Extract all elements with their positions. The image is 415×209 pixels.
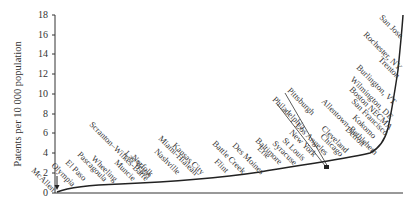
ytick-18: 18 [38,9,48,20]
marker [324,165,329,169]
ytick-8: 8 [43,108,48,119]
ytick-14: 14 [38,48,48,59]
ytick-16: 16 [38,29,48,40]
ytick-4: 4 [43,147,48,158]
city-labels: McAllen Olympia El Paso Pascagoula Wheel… [30,12,406,194]
ytick-10: 10 [38,88,48,99]
chart: 0 2 4 6 8 10 12 14 16 18 Patents per 10 … [0,0,415,209]
ytick-12: 12 [38,68,48,79]
y-axis-label: Patents per 10 000 population [12,41,23,167]
ytick-6: 6 [43,127,48,138]
